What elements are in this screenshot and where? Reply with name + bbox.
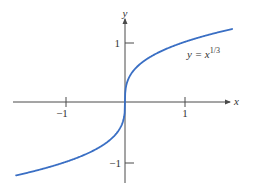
curve-label: y = x1/3 (186, 46, 220, 60)
x-tick-label-1: 1 (182, 107, 188, 119)
y-tick-label-neg1: −1 (109, 157, 121, 169)
x-axis-label: x (233, 95, 239, 107)
y-tick-label-1: 1 (115, 37, 121, 49)
y-axis-label: y (122, 7, 128, 19)
curve-label-base: y = x (186, 48, 210, 60)
cube-root-plot: −1 1 1 −1 x y y = x1/3 (0, 0, 253, 195)
x-tick-label-neg1: −1 (56, 107, 68, 119)
curve-label-exponent: 1/3 (210, 46, 220, 55)
